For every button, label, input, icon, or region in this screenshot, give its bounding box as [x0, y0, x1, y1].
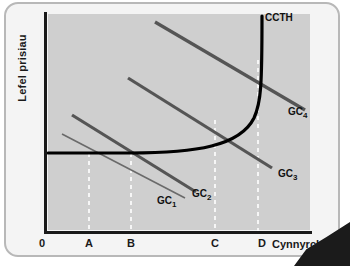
- curve-label-gc2: GC2: [192, 188, 211, 202]
- x-tick-0: 0: [39, 237, 45, 249]
- x-axis-line: [44, 231, 312, 234]
- curve-label-gc4-text: GC: [288, 106, 303, 117]
- curve-label-ccth: CCTH: [265, 12, 293, 23]
- chart-overlay: [0, 0, 350, 266]
- curve-label-gc1-text: GC: [157, 195, 172, 206]
- curve-label-gc1: GC1: [157, 195, 176, 209]
- curve-label-gc4-sub: 4: [303, 111, 307, 120]
- curve-label-gc2-text: GC: [192, 188, 207, 199]
- x-tick-a: A: [85, 237, 93, 249]
- curve-label-gc3-text: GC: [278, 168, 293, 179]
- x-tick-b: B: [127, 237, 135, 249]
- curve-label-gc3: GC3: [278, 168, 297, 182]
- curve-gc4: [155, 22, 305, 110]
- x-tick-c: C: [211, 237, 219, 249]
- chart-stage: Lefel prisiau Cynnyrch real 0 A B C D CC…: [0, 0, 350, 266]
- x-tick-d: D: [258, 237, 266, 249]
- curve-label-gc4: GC4: [288, 106, 307, 120]
- curve-label-gc2-sub: 2: [207, 193, 211, 202]
- curve-gc1: [62, 134, 185, 198]
- y-axis-line: [44, 12, 47, 234]
- y-axis-label: Lefel prisiau: [16, 18, 28, 118]
- curve-label-gc1-sub: 1: [172, 200, 176, 209]
- curve-label-gc3-sub: 3: [293, 173, 297, 182]
- curve-ccth: [48, 16, 262, 153]
